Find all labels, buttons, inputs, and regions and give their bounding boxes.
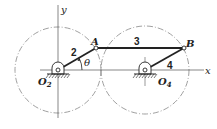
linkage-diagram: y x A B 2 3 4 θ O2 O4 [0,0,217,129]
theta-label: θ [84,57,90,68]
o2-label: O2 [38,76,52,89]
link-2-label: 2 [71,47,77,58]
link-4-label: 4 [167,60,173,71]
y-axis-label: y [60,4,67,15]
o4-label: O4 [158,76,172,89]
x-axis-label: x [205,65,211,76]
joint-a-label: A [90,36,99,47]
joint-b-label: B [185,38,194,49]
link-3-label: 3 [134,36,140,47]
